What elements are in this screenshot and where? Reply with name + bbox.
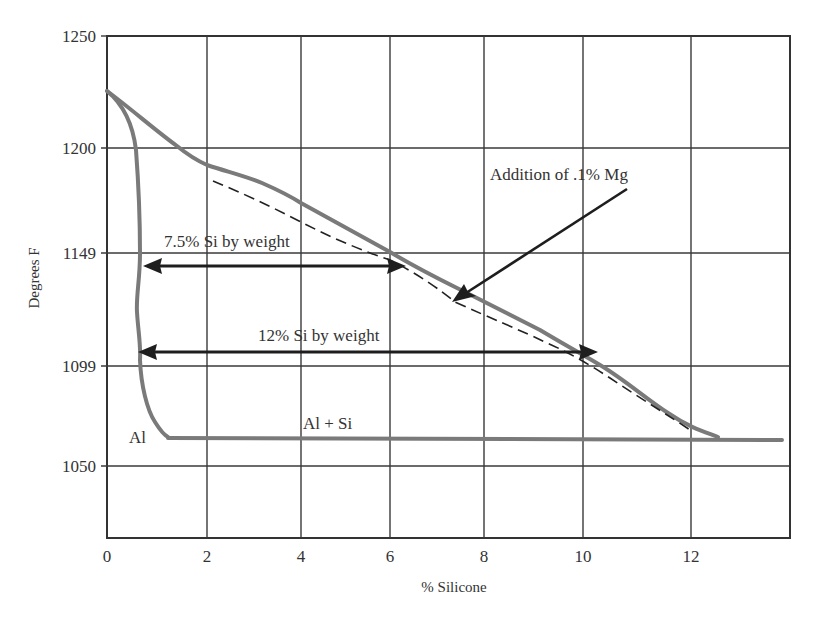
y-tick-1149: 1149 [63,244,96,263]
mg-pointer-arrow [452,189,627,302]
label-al-si: Al + Si [303,414,353,433]
label-12-percent: 12% Si by weight [258,326,380,345]
x-tick-6: 6 [386,547,395,566]
liquidus-curve [107,91,718,437]
x-tick-10: 10 [575,547,592,566]
label-7-5-percent: 7.5% Si by weight [164,232,290,251]
x-tick-12: 12 [683,547,700,566]
horizontal-gridlines [101,36,790,466]
y-axis-title: Degrees F [26,247,42,308]
y-tick-1050: 1050 [62,457,96,476]
y-tick-1099: 1099 [62,357,96,376]
arrow-7-5-percent [143,258,406,274]
x-axis-title: % Silicone [421,579,487,595]
phase-diagram-chart: 1250 1200 1149 1099 1050 0 2 4 6 8 10 12… [0,0,816,622]
x-tick-4: 4 [297,547,306,566]
vertical-gridlines [207,36,691,538]
label-mg-addition: Addition of .1% Mg [490,165,628,184]
eutectic-line [168,438,782,440]
y-axis-ticks: 1250 1200 1149 1099 1050 [62,27,96,476]
plot-frame [107,36,790,538]
x-axis-ticks: 0 2 4 6 8 10 12 [103,547,700,566]
y-tick-1250: 1250 [62,27,96,46]
x-tick-2: 2 [203,547,212,566]
label-al: Al [129,428,146,447]
x-tick-0: 0 [103,547,112,566]
x-tick-8: 8 [480,547,489,566]
mg-addition-curve [213,181,693,432]
y-tick-1200: 1200 [62,139,96,158]
